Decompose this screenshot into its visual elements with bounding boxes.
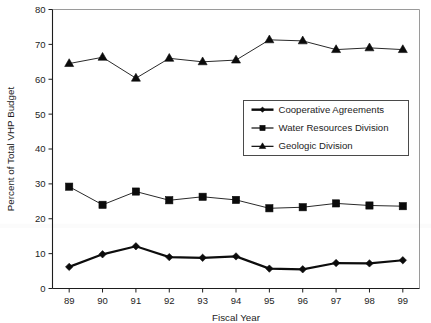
x-axis-title: Fiscal Year bbox=[212, 312, 261, 323]
y-tick-label: 70 bbox=[35, 39, 46, 50]
x-tick-label: 96 bbox=[297, 295, 308, 306]
x-tick-label: 97 bbox=[331, 295, 342, 306]
x-tick-label: 94 bbox=[231, 295, 242, 306]
data-point bbox=[266, 265, 273, 272]
series-cooperative-agreements bbox=[65, 243, 406, 273]
y-tick-label: 40 bbox=[35, 143, 46, 154]
data-point bbox=[265, 35, 274, 43]
legend-label: Water Resources Division bbox=[279, 122, 389, 133]
chart-container: 010203040506070808990919293949596979899F… bbox=[0, 0, 431, 323]
data-point bbox=[132, 243, 139, 250]
x-tick-label: 90 bbox=[97, 295, 108, 306]
series-geologic-division bbox=[65, 35, 408, 81]
data-point bbox=[198, 57, 207, 65]
data-point bbox=[232, 253, 239, 260]
data-point bbox=[266, 205, 273, 212]
legend-swatch-marker bbox=[260, 125, 265, 130]
scan-band bbox=[0, 224, 431, 228]
data-point bbox=[166, 253, 173, 260]
data-point bbox=[199, 193, 206, 200]
data-point bbox=[199, 254, 206, 261]
legend-label: Geologic Division bbox=[279, 140, 353, 151]
data-point bbox=[365, 43, 374, 51]
x-tick-label: 99 bbox=[398, 295, 409, 306]
data-point bbox=[399, 203, 406, 210]
x-tick-label: 91 bbox=[131, 295, 142, 306]
data-point bbox=[366, 260, 373, 267]
data-point bbox=[366, 202, 373, 209]
legend-label: Cooperative Agreements bbox=[279, 104, 385, 115]
data-point bbox=[131, 73, 140, 81]
data-point bbox=[299, 204, 306, 211]
legend: Cooperative AgreementsWater Resources Di… bbox=[244, 101, 409, 156]
data-point bbox=[332, 200, 339, 207]
y-axis-title: Percent of Total VHP Budget bbox=[5, 87, 16, 212]
y-tick-label: 0 bbox=[40, 283, 45, 294]
y-tick-label: 10 bbox=[35, 248, 46, 259]
data-point bbox=[232, 55, 241, 63]
x-tick-label: 95 bbox=[264, 295, 275, 306]
data-point bbox=[165, 53, 174, 61]
data-point bbox=[232, 196, 239, 203]
data-point bbox=[298, 36, 307, 44]
data-point bbox=[299, 266, 306, 273]
data-point bbox=[99, 251, 106, 258]
y-tick-label: 50 bbox=[35, 109, 46, 120]
x-axis-ticks: 8990919293949596979899 bbox=[64, 289, 408, 306]
data-point bbox=[132, 188, 139, 195]
y-tick-label: 30 bbox=[35, 178, 46, 189]
x-tick-label: 92 bbox=[164, 295, 175, 306]
series-water-resources-division bbox=[66, 183, 407, 212]
data-point bbox=[398, 45, 407, 53]
line-chart: 010203040506070808990919293949596979899F… bbox=[0, 0, 431, 323]
y-axis-ticks: 01020304050607080 bbox=[35, 4, 53, 294]
y-tick-label: 80 bbox=[35, 4, 46, 15]
data-point bbox=[98, 52, 107, 60]
data-point bbox=[65, 263, 72, 270]
data-point bbox=[332, 259, 339, 266]
y-tick-label: 20 bbox=[35, 213, 46, 224]
data-point bbox=[399, 257, 406, 264]
x-tick-label: 89 bbox=[64, 295, 75, 306]
x-tick-label: 98 bbox=[364, 295, 375, 306]
y-tick-label: 60 bbox=[35, 74, 46, 85]
data-point bbox=[66, 183, 73, 190]
data-point bbox=[99, 201, 106, 208]
data-point bbox=[166, 197, 173, 204]
x-tick-label: 93 bbox=[197, 295, 208, 306]
